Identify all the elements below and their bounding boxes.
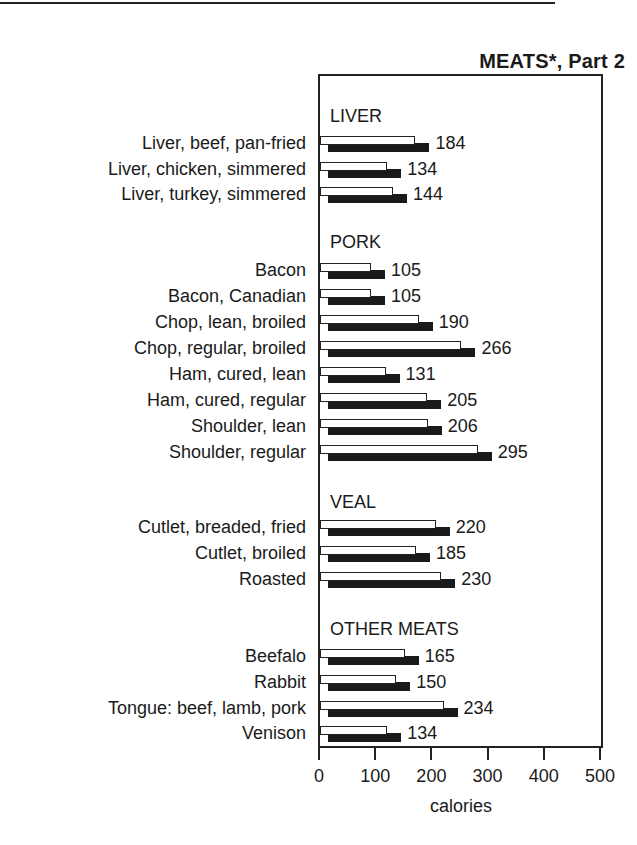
bar-value: 134	[407, 159, 437, 179]
bar	[320, 726, 387, 735]
x-tick-label: 200	[416, 766, 446, 787]
bar	[320, 520, 436, 529]
bar-value: 220	[456, 517, 486, 537]
row-label: Liver, turkey, simmered	[121, 184, 306, 204]
bar-value: 230	[461, 569, 491, 589]
row-label: Liver, beef, pan-fried	[142, 133, 306, 153]
bar-value: 105	[391, 260, 421, 280]
row-label: Rabbit	[254, 672, 306, 692]
bar	[320, 315, 419, 324]
bar-value: 131	[406, 364, 436, 384]
row-label: Beefalo	[245, 646, 306, 666]
row-label: Shoulder, regular	[169, 442, 306, 462]
row-label: Bacon	[255, 260, 306, 280]
row-label: Liver, chicken, simmered	[108, 159, 306, 179]
bar	[320, 445, 478, 454]
group-header: PORK	[330, 232, 381, 253]
bar-value: 295	[498, 442, 528, 462]
row-label: Venison	[242, 723, 306, 743]
row-label: Chop, lean, broiled	[155, 312, 306, 332]
bar	[320, 263, 371, 272]
group-header: OTHER MEATS	[330, 619, 459, 640]
x-tick	[599, 746, 601, 760]
bar	[320, 675, 396, 684]
x-tick-label: 100	[360, 766, 390, 787]
x-tick	[543, 746, 545, 760]
row-label: Bacon, Canadian	[168, 286, 306, 306]
row-label: Roasted	[239, 569, 306, 589]
x-tick-label: 500	[585, 766, 615, 787]
row-label: Tongue: beef, lamb, pork	[108, 698, 306, 718]
bar	[320, 367, 386, 376]
x-tick	[430, 746, 432, 760]
bar	[320, 572, 441, 581]
bar-value: 144	[413, 184, 443, 204]
chart-title: MEATS*, Part 2	[479, 50, 625, 73]
x-axis-label: calories	[430, 796, 492, 817]
row-label: Chop, regular, broiled	[134, 338, 306, 358]
bar	[320, 162, 387, 171]
bar	[320, 136, 415, 145]
row-label: Cutlet, broiled	[195, 543, 306, 563]
bar	[320, 419, 428, 428]
x-tick	[318, 746, 320, 760]
bar-value: 206	[448, 416, 478, 436]
bar	[320, 187, 393, 196]
bar-value: 105	[391, 286, 421, 306]
bar-value: 234	[464, 698, 494, 718]
bar-value: 190	[439, 312, 469, 332]
x-tick-label: 0	[314, 766, 324, 787]
bar-value: 134	[407, 723, 437, 743]
bar	[320, 546, 416, 555]
bar-value: 185	[436, 543, 466, 563]
group-header: VEAL	[330, 492, 376, 513]
bar-value: 205	[447, 390, 477, 410]
bar	[320, 341, 461, 350]
bar-value: 150	[416, 672, 446, 692]
row-label: Ham, cured, lean	[169, 364, 306, 384]
bar	[320, 289, 371, 298]
bar-value: 266	[481, 338, 511, 358]
bar-value: 165	[425, 646, 455, 666]
x-tick	[374, 746, 376, 760]
group-header: LIVER	[330, 106, 382, 127]
row-label: Ham, cured, regular	[147, 390, 306, 410]
x-tick-label: 400	[529, 766, 559, 787]
row-label: Shoulder, lean	[191, 416, 306, 436]
x-tick-label: 300	[473, 766, 503, 787]
bar	[320, 649, 405, 658]
x-tick	[487, 746, 489, 760]
bar	[320, 393, 427, 402]
top-rule	[0, 2, 555, 4]
bar-value: 184	[435, 133, 465, 153]
bar	[320, 701, 444, 710]
row-label: Cutlet, breaded, fried	[138, 517, 306, 537]
